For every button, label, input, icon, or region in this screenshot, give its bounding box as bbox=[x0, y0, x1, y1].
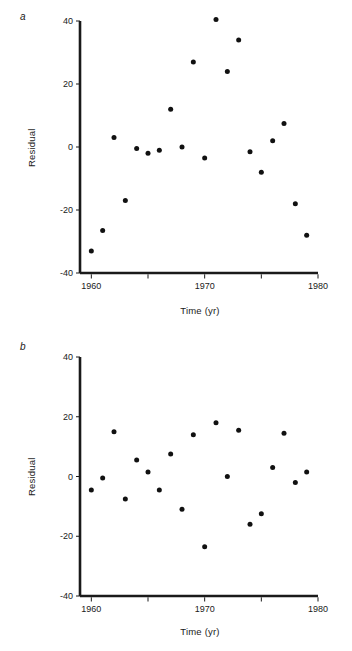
x-tick-label: 1970 bbox=[195, 604, 215, 614]
data-point bbox=[214, 420, 219, 425]
data-point bbox=[248, 149, 253, 154]
data-point bbox=[168, 452, 173, 457]
data-point bbox=[134, 458, 139, 463]
data-point bbox=[123, 496, 128, 501]
data-point bbox=[259, 170, 264, 175]
data-point bbox=[89, 248, 94, 253]
data-point bbox=[123, 198, 128, 203]
data-point bbox=[225, 69, 230, 74]
data-point bbox=[157, 148, 162, 153]
data-point bbox=[157, 487, 162, 492]
y-tick-label: 0 bbox=[68, 472, 73, 482]
data-point bbox=[214, 17, 219, 22]
x-tick-label: 1960 bbox=[81, 281, 101, 291]
data-point bbox=[180, 145, 185, 150]
data-point bbox=[134, 146, 139, 151]
data-point bbox=[180, 507, 185, 512]
data-point bbox=[304, 233, 309, 238]
data-point bbox=[304, 470, 309, 475]
y-tick-label: 20 bbox=[63, 79, 73, 89]
data-point bbox=[282, 121, 287, 126]
y-tick-label: 20 bbox=[63, 412, 73, 422]
data-point bbox=[112, 429, 117, 434]
panel-a: a Residual Time (yr) -40-200204019601970… bbox=[0, 0, 352, 330]
data-point bbox=[100, 475, 105, 480]
data-point bbox=[191, 59, 196, 64]
data-point bbox=[248, 522, 253, 527]
y-tick-label: 40 bbox=[63, 352, 73, 362]
data-point bbox=[293, 480, 298, 485]
data-point bbox=[236, 428, 241, 433]
x-tick-label: 1960 bbox=[81, 604, 101, 614]
panel-b-plot-area: -40-2002040196019701980 bbox=[0, 330, 352, 651]
data-point bbox=[112, 135, 117, 140]
data-point bbox=[202, 156, 207, 161]
data-point bbox=[270, 138, 275, 143]
data-point bbox=[282, 431, 287, 436]
y-tick-label: 0 bbox=[68, 142, 73, 152]
data-point bbox=[236, 37, 241, 42]
data-point bbox=[202, 544, 207, 549]
x-tick-label: 1980 bbox=[308, 281, 328, 291]
data-point bbox=[270, 465, 275, 470]
y-tick-label: -40 bbox=[60, 268, 73, 278]
data-point bbox=[293, 201, 298, 206]
y-tick-label: -20 bbox=[60, 531, 73, 541]
x-tick-label: 1980 bbox=[308, 604, 328, 614]
data-point bbox=[89, 487, 94, 492]
data-point bbox=[191, 432, 196, 437]
y-tick-label: -40 bbox=[60, 591, 73, 601]
data-point bbox=[259, 511, 264, 516]
data-point bbox=[100, 228, 105, 233]
x-tick-label: 1970 bbox=[195, 281, 215, 291]
data-point bbox=[146, 151, 151, 156]
y-tick-label: 40 bbox=[63, 16, 73, 26]
data-point bbox=[168, 107, 173, 112]
panel-b: b Residual Time (yr) -40-200204019601970… bbox=[0, 330, 352, 651]
data-point bbox=[225, 474, 230, 479]
residual-scatter-figure: a Residual Time (yr) -40-200204019601970… bbox=[0, 0, 352, 651]
panel-a-plot-area: -40-2002040196019701980 bbox=[0, 0, 352, 330]
data-point bbox=[146, 470, 151, 475]
y-tick-label: -20 bbox=[60, 205, 73, 215]
